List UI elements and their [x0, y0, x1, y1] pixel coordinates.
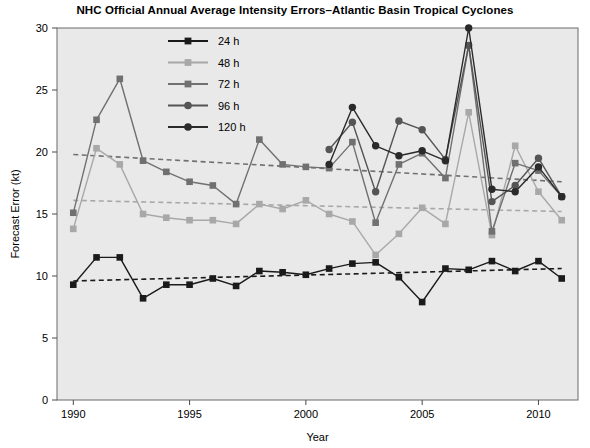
data-point-72-h: [372, 219, 379, 226]
data-point-24-h: [465, 267, 472, 274]
data-point-24-h: [558, 275, 565, 282]
legend-label-24-h: 24 h: [218, 35, 239, 47]
x-axis-tick-label: 1990: [61, 408, 85, 420]
data-point-120-h: [418, 147, 425, 154]
y-axis-tick-label: 0: [42, 394, 48, 406]
x-axis-tick-label: 2010: [526, 408, 550, 420]
data-point-72-h: [93, 116, 100, 123]
data-point-24-h: [396, 274, 403, 281]
data-point-72-h: [116, 76, 123, 83]
data-point-120-h: [488, 186, 495, 193]
data-point-96-h: [372, 188, 379, 195]
data-point-96-h: [349, 119, 356, 126]
data-point-72-h: [186, 178, 193, 185]
data-point-24-h: [442, 265, 449, 272]
data-point-72-h: [163, 169, 170, 176]
y-axis-tick-label: 15: [36, 208, 48, 220]
data-point-48-h: [303, 197, 310, 204]
data-point-96-h: [535, 155, 542, 162]
legend-label-96-h: 96 h: [218, 100, 239, 112]
data-point-120-h: [512, 188, 519, 195]
data-point-72-h: [489, 228, 496, 235]
legend-marker-72-h: [185, 81, 192, 88]
data-point-72-h: [349, 139, 356, 146]
data-point-24-h: [210, 275, 217, 282]
y-axis-tick-label: 25: [36, 84, 48, 96]
data-point-120-h: [558, 193, 565, 200]
data-point-48-h: [372, 252, 379, 259]
x-axis-title: Year: [306, 431, 329, 443]
x-axis-tick-label: 1995: [177, 408, 201, 420]
data-point-48-h: [535, 188, 542, 195]
data-point-24-h: [163, 281, 170, 288]
data-point-48-h: [326, 211, 333, 218]
y-axis-tick-label: 20: [36, 146, 48, 158]
y-axis-tick-label: 5: [42, 332, 48, 344]
data-point-24-h: [233, 283, 240, 290]
data-point-24-h: [279, 269, 286, 276]
data-point-72-h: [303, 164, 310, 171]
data-point-48-h: [70, 226, 77, 233]
data-point-48-h: [558, 217, 565, 224]
data-point-96-h: [325, 146, 332, 153]
data-point-24-h: [93, 254, 100, 261]
data-point-24-h: [419, 299, 426, 306]
data-point-120-h: [442, 157, 449, 164]
data-point-24-h: [303, 271, 310, 278]
data-point-48-h: [93, 145, 100, 152]
data-point-96-h: [488, 198, 495, 205]
data-point-48-h: [233, 221, 240, 228]
legend-label-48-h: 48 h: [218, 57, 239, 69]
data-point-120-h: [349, 104, 356, 111]
data-point-120-h: [372, 142, 379, 149]
x-axis-tick-label: 2005: [410, 408, 434, 420]
data-point-72-h: [396, 161, 403, 168]
y-axis-tick-label: 10: [36, 270, 48, 282]
data-point-120-h: [395, 152, 402, 159]
data-point-24-h: [372, 259, 379, 266]
data-point-24-h: [512, 268, 519, 275]
legend-marker-96-h: [184, 102, 192, 110]
data-point-48-h: [279, 206, 286, 213]
legend-marker-48-h: [185, 59, 192, 66]
chart-container: NHC Official Annual Average Intensity Er…: [0, 0, 590, 448]
data-point-24-h: [535, 258, 542, 265]
legend-marker-120-h: [184, 123, 192, 131]
data-point-48-h: [442, 221, 449, 228]
data-point-120-h: [535, 163, 542, 170]
data-point-96-h: [418, 126, 425, 133]
x-axis-tick-label: 2000: [294, 408, 318, 420]
data-point-48-h: [419, 205, 426, 212]
data-point-24-h: [489, 258, 496, 265]
data-point-120-h: [465, 24, 472, 31]
data-point-48-h: [140, 211, 147, 218]
data-point-24-h: [326, 265, 333, 272]
legend-label-72-h: 72 h: [218, 78, 239, 90]
data-point-48-h: [256, 201, 263, 208]
y-axis-tick-label: 30: [36, 22, 48, 34]
data-point-48-h: [465, 109, 472, 116]
data-point-120-h: [325, 161, 332, 168]
legend-label-120-h: 120 h: [218, 121, 246, 133]
data-point-96-h: [395, 117, 402, 124]
data-point-48-h: [186, 217, 193, 224]
data-point-48-h: [116, 161, 123, 168]
data-point-24-h: [256, 268, 263, 275]
y-axis-title: Forecast Error (kt): [9, 169, 21, 258]
data-point-24-h: [116, 254, 123, 261]
data-point-48-h: [396, 231, 403, 238]
data-point-72-h: [442, 175, 449, 182]
data-point-72-h: [512, 160, 519, 167]
data-point-24-h: [70, 281, 77, 288]
legend-marker-24-h: [185, 38, 192, 45]
data-point-24-h: [186, 281, 193, 288]
data-point-48-h: [512, 143, 519, 150]
data-point-48-h: [163, 214, 170, 221]
chart-plot-area: 05101520253019901995200020052010YearFore…: [0, 0, 590, 448]
data-point-72-h: [140, 157, 147, 164]
data-point-24-h: [140, 295, 147, 302]
data-point-72-h: [233, 201, 240, 208]
data-point-72-h: [256, 136, 263, 143]
data-point-72-h: [279, 161, 286, 168]
data-point-72-h: [70, 209, 77, 216]
